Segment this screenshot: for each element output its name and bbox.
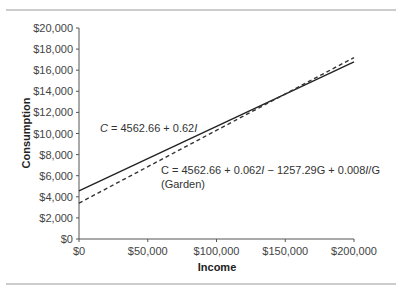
x-tick-label: $50,000 xyxy=(128,245,168,257)
y-axis-label: Consumption xyxy=(20,97,32,168)
axes: $0$2,000$4,000$6,000$8,000$10,000$12,000… xyxy=(33,22,377,257)
annotation-dashed: C = 4562.66 + 0.062I − 1257.29G + 0.008I… xyxy=(161,164,380,176)
y-tick-label: $4,000 xyxy=(39,191,73,203)
x-tick-label: $200,000 xyxy=(331,245,377,257)
consumption-income-chart: $0$2,000$4,000$6,000$8,000$10,000$12,000… xyxy=(0,0,403,298)
y-tick-label: $0 xyxy=(61,233,73,245)
y-tick-label: $14,000 xyxy=(33,85,73,97)
y-tick-label: $12,000 xyxy=(33,106,73,118)
y-tick-label: $16,000 xyxy=(33,64,73,76)
x-tick-label: $0 xyxy=(73,245,85,257)
x-axis-label: Income xyxy=(198,261,237,273)
x-tick-label: $100,000 xyxy=(194,245,240,257)
y-tick-label: $8,000 xyxy=(39,149,73,161)
x-tick-label: $150,000 xyxy=(262,245,308,257)
annotation-solid: C = 4562.66 + 0.62I xyxy=(100,122,197,134)
y-tick-label: $2,000 xyxy=(39,212,73,224)
y-tick-label: $20,000 xyxy=(33,22,73,34)
y-tick-label: $6,000 xyxy=(39,170,73,182)
annotation-dashed-garden: (Garden) xyxy=(161,178,205,190)
y-tick-label: $10,000 xyxy=(33,128,73,140)
y-tick-label: $18,000 xyxy=(33,43,73,55)
